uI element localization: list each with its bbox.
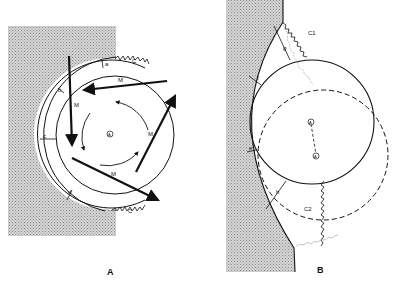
center-symbol-a: A (108, 132, 111, 137)
segment-label-d: d (68, 189, 71, 195)
diagram-canvas: a b c d C C M M M M A A A A (0, 0, 395, 282)
segment-label-c: c (43, 133, 46, 139)
spring-label-bottom: C (128, 208, 133, 214)
spring-label-top: C (132, 58, 137, 64)
arrow-label-m-4: M (111, 171, 116, 177)
segment-label-f: f (257, 75, 259, 81)
panel-label-b: B (317, 265, 324, 275)
spring-c2 (321, 181, 324, 246)
spring-label-c1: C1 (308, 30, 316, 36)
arrow-label-m-3: M (148, 131, 153, 137)
substrate-b (226, 0, 295, 272)
spring-c2-ghost (296, 235, 338, 246)
segment-label-g: g (283, 45, 286, 51)
panel-a: a b c d C C M M M M A A (8, 26, 186, 277)
segment-label-h: h (276, 189, 279, 195)
center-symbol-b-1: A (309, 120, 312, 125)
arrow-label-m-1: M (118, 77, 123, 83)
spring-label-c2: C2 (304, 206, 312, 212)
panel-label-a: A (107, 267, 114, 277)
arrow-label-m-2: M (74, 102, 79, 108)
center-symbol-b-2: A (314, 154, 317, 159)
panel-b: A A g f e h C1 C2 B (226, 0, 388, 275)
